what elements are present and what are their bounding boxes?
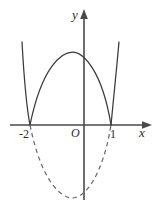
x-tick-label-neg-2: -2 [19, 128, 29, 140]
function-plot [0, 0, 158, 205]
curve-left-branch [22, 42, 30, 125]
x-axis-label: x [139, 126, 145, 139]
y-axis-label: y [72, 8, 78, 21]
x-tick-label-1: 1 [110, 128, 116, 140]
graph-figure: y x O -2 1 [0, 0, 158, 205]
curve-right-branch [111, 42, 119, 125]
x-axis [10, 121, 152, 129]
y-axis [80, 9, 88, 200]
origin-label: O [71, 127, 80, 139]
curve-reflected-arch [30, 52, 111, 125]
